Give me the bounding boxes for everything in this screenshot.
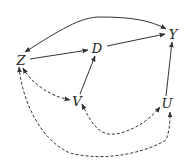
edge-z-v-confounded: [23, 68, 70, 100]
node-d: D: [92, 42, 102, 55]
edge-v-u-confounded: [82, 104, 160, 134]
edge-d-to-y: [107, 34, 165, 46]
causal-diagram: Z D Y V U: [0, 0, 187, 165]
diagram-edges: [0, 0, 187, 165]
edge-z-u-confounded: [19, 67, 170, 157]
node-y: Y: [169, 28, 178, 41]
node-v: V: [72, 95, 81, 108]
edge-v-to-d: [80, 56, 95, 94]
node-u: U: [162, 97, 173, 110]
edge-u-to-y: [166, 42, 172, 96]
edge-z-to-d: [30, 50, 88, 59]
node-z: Z: [16, 54, 25, 67]
